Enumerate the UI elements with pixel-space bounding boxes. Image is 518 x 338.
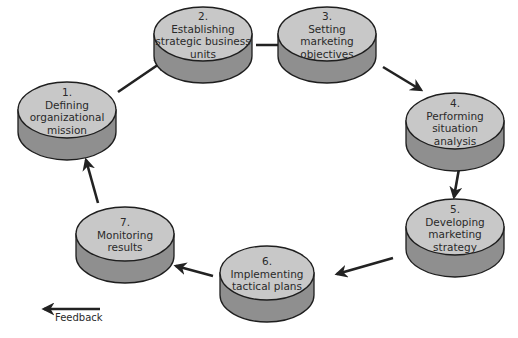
step-cylinder-5 [406, 199, 504, 277]
cylinder-top [154, 7, 252, 61]
arrow-step-5-to-6 [337, 258, 393, 274]
step-cylinder-2 [154, 7, 252, 83]
cylinder-top [406, 199, 504, 255]
cylinder-top [76, 207, 174, 261]
cylinder-top [18, 82, 116, 138]
feedback-legend-label: Feedback [55, 312, 103, 323]
step-cylinder-1 [18, 82, 116, 160]
arrow-step-3-to-4 [383, 67, 421, 90]
step-cylinder-4 [406, 93, 504, 171]
cylinder-top [220, 246, 314, 300]
cylinder-top [406, 93, 504, 149]
step-cylinders [18, 7, 504, 322]
arrow-step-6-to-7 [176, 266, 213, 276]
cylinder-top [278, 7, 376, 61]
step-cylinder-7 [76, 207, 174, 283]
step-cylinder-3 [278, 7, 376, 83]
marketing-planning-cycle-diagram [0, 0, 518, 338]
arrow-step-7-to-1 [86, 160, 98, 203]
step-cylinder-6 [220, 246, 314, 322]
